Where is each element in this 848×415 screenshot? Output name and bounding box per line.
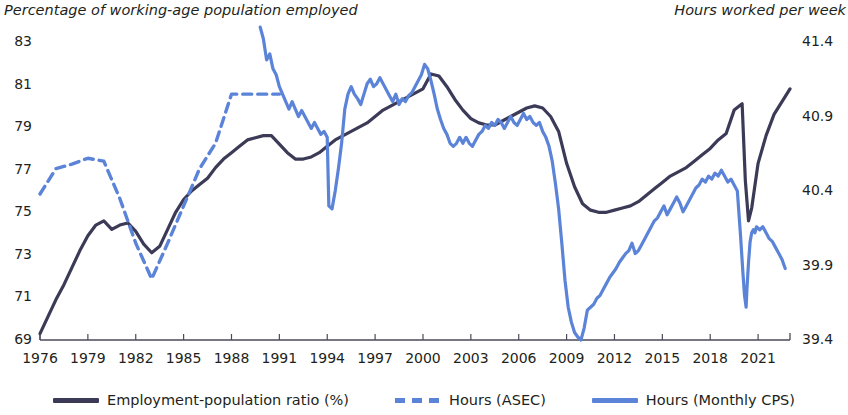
y-right-tick: 39.9 [802,257,842,273]
y-right-tick: 40.9 [802,108,842,124]
legend-label: Hours (ASEC) [449,392,546,408]
y-right-tick: 40.4 [802,182,842,198]
series-lines [40,27,790,340]
x-tick: 1976 [17,350,63,366]
x-tick: 2015 [639,350,685,366]
chart-legend: Employment-population ratio (%)Hours (AS… [0,385,848,415]
y-left-tick: 83 [2,33,32,49]
x-tick: 2003 [448,350,494,366]
x-tick: 2006 [496,350,542,366]
legend-asec[interactable]: Hours (ASEC) [395,392,546,408]
y-left-tick: 77 [2,161,32,177]
legend-cps[interactable]: Hours (Monthly CPS) [592,392,795,408]
series-line-2 [260,27,785,340]
y-left-tick: 73 [2,246,32,262]
y-left-tick: 71 [2,288,32,304]
y-left-tick: 69 [2,331,32,347]
x-tick: 2000 [400,350,446,366]
x-tick: 2018 [687,350,733,366]
series-line-0 [40,74,790,334]
y-left-tick: 81 [2,76,32,92]
legend-epop[interactable]: Employment-population ratio (%) [53,392,349,408]
x-tick: 1997 [352,350,398,366]
x-tick: 1982 [113,350,159,366]
legend-swatch-solid [53,398,99,403]
x-tick: 1988 [208,350,254,366]
x-tick: 2009 [544,350,590,366]
x-tick: 1979 [65,350,111,366]
legend-label: Employment-population ratio (%) [107,392,349,408]
y-left-tick: 79 [2,118,32,134]
x-tick: 2021 [735,350,781,366]
chart-container: Percentage of working-age population emp… [0,0,848,415]
legend-swatch-solid [592,398,638,403]
x-tick: 2012 [591,350,637,366]
x-tick: 1994 [304,350,350,366]
y-right-tick: 39.4 [802,331,842,347]
axis-lines [40,333,790,340]
series-line-1 [40,94,279,279]
x-tick: 1991 [256,350,302,366]
x-tick: 1985 [161,350,207,366]
y-right-tick: 41.4 [802,33,842,49]
y-left-tick: 75 [2,203,32,219]
legend-swatch-dashed [395,398,441,403]
legend-label: Hours (Monthly CPS) [646,392,795,408]
